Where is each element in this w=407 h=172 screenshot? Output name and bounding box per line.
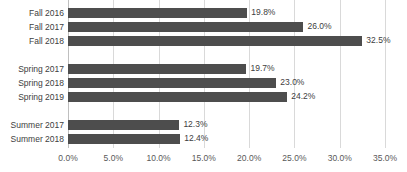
bar[interactable] bbox=[68, 22, 303, 32]
bar-value-label: 23.0% bbox=[280, 76, 304, 88]
bar[interactable] bbox=[68, 92, 287, 102]
bar-row[interactable]: 23.0% bbox=[68, 78, 385, 88]
bar-row[interactable]: 24.2% bbox=[68, 92, 385, 102]
bar-value-label: 12.4% bbox=[184, 132, 208, 144]
x-tick-label: 35.0% bbox=[373, 152, 397, 164]
category-label: Spring 2019 bbox=[0, 91, 64, 103]
bar[interactable] bbox=[68, 78, 276, 88]
category-label: Summer 2017 bbox=[0, 119, 64, 131]
category-label: Spring 2018 bbox=[0, 77, 64, 89]
bar-row[interactable]: 12.4% bbox=[68, 134, 385, 144]
bar-chart: 19.8%26.0%32.5%19.7%23.0%24.2%12.3%12.4%… bbox=[0, 0, 407, 172]
bar[interactable] bbox=[68, 64, 246, 74]
bar-value-label: 24.2% bbox=[291, 90, 315, 102]
category-label: Spring 2017 bbox=[0, 63, 64, 75]
bar-row[interactable]: 32.5% bbox=[68, 36, 385, 46]
bar[interactable] bbox=[68, 8, 247, 18]
bar[interactable] bbox=[68, 120, 179, 130]
category-label: Summer 2018 bbox=[0, 133, 64, 145]
x-tick-label: 30.0% bbox=[328, 152, 352, 164]
bar-row[interactable]: 12.3% bbox=[68, 120, 385, 130]
category-label: Fall 2016 bbox=[0, 7, 64, 19]
x-axis: 0.0%5.0%10.0%15.0%20.0%25.0%30.0%35.0% bbox=[68, 150, 385, 170]
bar[interactable] bbox=[68, 36, 362, 46]
bar[interactable] bbox=[68, 134, 180, 144]
x-tick-label: 5.0% bbox=[104, 152, 123, 164]
bar-value-label: 32.5% bbox=[366, 34, 390, 46]
gridline-35.0% bbox=[385, 0, 386, 148]
bar-row[interactable]: 26.0% bbox=[68, 22, 385, 32]
x-tick-label: 25.0% bbox=[282, 152, 306, 164]
x-tick-label: 10.0% bbox=[147, 152, 171, 164]
plot-area: 19.8%26.0%32.5%19.7%23.0%24.2%12.3%12.4% bbox=[68, 0, 385, 148]
x-tick-label: 20.0% bbox=[237, 152, 261, 164]
bar-row[interactable]: 19.7% bbox=[68, 64, 385, 74]
bar-value-label: 12.3% bbox=[183, 118, 207, 130]
category-label: Fall 2018 bbox=[0, 35, 64, 47]
bar-value-label: 26.0% bbox=[307, 20, 331, 32]
category-label: Fall 2017 bbox=[0, 21, 64, 33]
x-tick-label: 15.0% bbox=[192, 152, 216, 164]
bar-value-label: 19.7% bbox=[250, 62, 274, 74]
bar-value-label: 19.8% bbox=[251, 6, 275, 18]
x-tick-label: 0.0% bbox=[58, 152, 77, 164]
bar-row[interactable]: 19.8% bbox=[68, 8, 385, 18]
